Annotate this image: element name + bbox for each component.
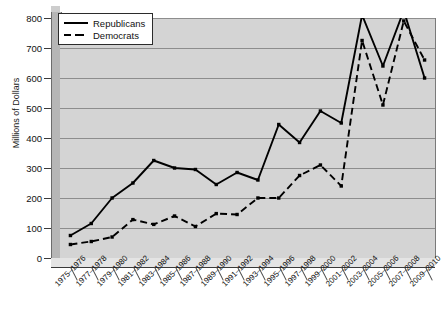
x-axis: 1975–19761977–19781979–19801981–19821983…	[0, 0, 446, 320]
legend-label: Democrats	[93, 30, 139, 41]
legend-label: Republicans	[93, 18, 145, 29]
legend-line-solid-icon	[64, 19, 88, 27]
line-chart: Millions of Dollars 01002003004005006007…	[0, 0, 446, 320]
chart-legend: Republicans Democrats	[58, 13, 153, 45]
legend-line-dashed-icon	[64, 31, 88, 39]
legend-item-democrats: Democrats	[64, 29, 145, 41]
legend-item-republicans: Republicans	[64, 17, 145, 29]
